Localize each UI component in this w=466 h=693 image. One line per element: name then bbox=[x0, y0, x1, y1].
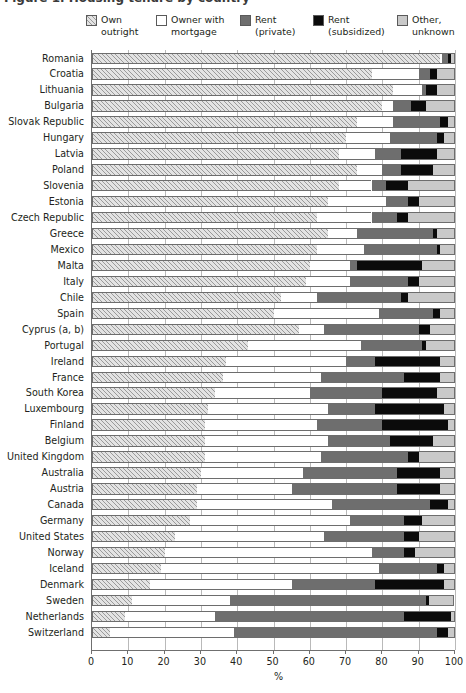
bar-segment-rent_subsidized bbox=[433, 228, 437, 239]
bar-segment-other_unknown bbox=[426, 340, 455, 351]
bar-segment-owner_mortgage bbox=[205, 435, 328, 446]
bar-segment-rent_private bbox=[350, 515, 404, 526]
x-axis-title-text: % bbox=[274, 671, 283, 682]
bar-segment-rent_subsidized bbox=[404, 531, 419, 542]
bar-row bbox=[92, 53, 455, 64]
y-axis-label: Poland bbox=[52, 162, 84, 177]
bar-segment-rent_private bbox=[234, 627, 437, 638]
black-swatch-icon bbox=[313, 15, 324, 26]
bar-segment-owner_mortgage bbox=[346, 132, 390, 143]
y-axis-label: Sweden bbox=[46, 593, 84, 608]
bar-segment-other_unknown bbox=[444, 563, 455, 574]
bar-segment-owner_mortgage bbox=[197, 483, 291, 494]
y-axis-label: Iceland bbox=[49, 561, 84, 576]
bar-segment-owner_mortgage bbox=[372, 68, 419, 79]
y-axis-label: Estonia bbox=[49, 194, 84, 209]
bar-segment-other_unknown bbox=[422, 515, 455, 526]
bar-segment-rent_subsidized bbox=[430, 68, 437, 79]
white-swatch-icon bbox=[156, 15, 167, 26]
bar-segment-own_outright bbox=[92, 563, 161, 574]
legend-label-line2: mortgage bbox=[171, 26, 224, 38]
x-tick-label: 60 bbox=[289, 656, 329, 667]
bar-segment-rent_subsidized bbox=[408, 276, 419, 287]
bar-segment-own_outright bbox=[92, 276, 306, 287]
bar-row bbox=[92, 84, 455, 95]
x-tick-20 bbox=[164, 650, 165, 654]
bar-segment-rent_private bbox=[321, 451, 408, 462]
bar-segment-owner_mortgage bbox=[281, 292, 317, 303]
y-axis-label: Portugal bbox=[44, 338, 84, 353]
bar-segment-other_unknown bbox=[437, 148, 455, 159]
bar-segment-rent_subsidized bbox=[426, 595, 429, 606]
bar-segment-other_unknown bbox=[444, 403, 455, 414]
x-tick-80 bbox=[381, 650, 382, 654]
bar-row bbox=[92, 451, 455, 462]
y-axis-label: Slovak Republic bbox=[8, 114, 84, 129]
x-tick-40 bbox=[236, 650, 237, 654]
bar-segment-rent_private bbox=[382, 164, 400, 175]
bar-row bbox=[92, 228, 455, 239]
bar-segment-rent_subsidized bbox=[375, 356, 440, 367]
bar-row bbox=[92, 356, 455, 367]
bar-segment-rent_private bbox=[379, 563, 437, 574]
bar-segment-rent_subsidized bbox=[437, 627, 448, 638]
bar-row bbox=[92, 627, 455, 638]
bar-segment-owner_mortgage bbox=[317, 212, 371, 223]
bar-segment-owner_mortgage bbox=[205, 451, 321, 462]
bar-segment-rent_subsidized bbox=[375, 579, 444, 590]
bar-segment-other_unknown bbox=[415, 547, 455, 558]
bar-segment-owner_mortgage bbox=[339, 148, 375, 159]
legend-label-line1: Owner with bbox=[171, 14, 224, 26]
x-tick-label: 80 bbox=[361, 656, 401, 667]
bar-segment-other_unknown bbox=[440, 308, 455, 319]
y-axis-label: South Korea bbox=[26, 385, 84, 400]
legend-label-rent_private: Rent(private) bbox=[255, 14, 295, 37]
bar-segment-own_outright bbox=[92, 340, 248, 351]
bar-segment-own_outright bbox=[92, 148, 339, 159]
bar-segment-other_unknown bbox=[408, 180, 455, 191]
bar-segment-rent_subsidized bbox=[448, 53, 452, 64]
bar-segment-own_outright bbox=[92, 212, 317, 223]
y-axis-label: Germany bbox=[40, 513, 84, 528]
bar-segment-rent_subsidized bbox=[397, 212, 408, 223]
y-axis-label: Canada bbox=[47, 497, 84, 512]
bar-row bbox=[92, 387, 455, 398]
bar-segment-rent_private bbox=[328, 435, 390, 446]
bar-row bbox=[92, 579, 455, 590]
bar-segment-rent_subsidized bbox=[408, 451, 419, 462]
bar-segment-other_unknown bbox=[433, 164, 455, 175]
bar-segment-rent_subsidized bbox=[404, 547, 415, 558]
bar-segment-rent_subsidized bbox=[408, 196, 419, 207]
bar-segment-rent_private bbox=[390, 132, 437, 143]
bar-segment-other_unknown bbox=[437, 84, 455, 95]
bar-segment-other_unknown bbox=[422, 260, 455, 271]
bar-segment-own_outright bbox=[92, 68, 372, 79]
figure-title-text: Figure 1. Housing tenure by country bbox=[4, 0, 250, 5]
bar-segment-rent_subsidized bbox=[397, 467, 441, 478]
bar-row bbox=[92, 372, 455, 383]
bar-segment-other_unknown bbox=[430, 324, 455, 335]
gridline-100 bbox=[455, 50, 456, 650]
bar-segment-own_outright bbox=[92, 547, 165, 558]
bar-segment-owner_mortgage bbox=[393, 84, 422, 95]
bar-segment-owner_mortgage bbox=[150, 579, 292, 590]
bar-segment-own_outright bbox=[92, 372, 223, 383]
bar-row bbox=[92, 483, 455, 494]
bar-segment-owner_mortgage bbox=[208, 403, 328, 414]
bar-segment-other_unknown bbox=[451, 53, 455, 64]
legend-label-own_outright: Ownoutright bbox=[101, 14, 138, 37]
bar-segment-other_unknown bbox=[437, 228, 455, 239]
bar-segment-rent_subsidized bbox=[433, 308, 440, 319]
bar-segment-owner_mortgage bbox=[328, 228, 357, 239]
bar-segment-rent_subsidized bbox=[411, 100, 426, 111]
bar-segment-other_unknown bbox=[440, 467, 455, 478]
bar-segment-owner_mortgage bbox=[215, 387, 309, 398]
bar-segment-other_unknown bbox=[448, 116, 455, 127]
figure-title-clipped: Figure 1. Housing tenure by country bbox=[0, 0, 466, 9]
bar-segment-other_unknown bbox=[408, 292, 455, 303]
bar-segment-rent_private bbox=[321, 372, 404, 383]
y-axis-label: Switzerland bbox=[28, 625, 84, 640]
y-axis-label: Ireland bbox=[51, 354, 84, 369]
bar-segment-rent_private bbox=[215, 611, 404, 622]
legend-label-line2: unknown bbox=[412, 26, 455, 38]
